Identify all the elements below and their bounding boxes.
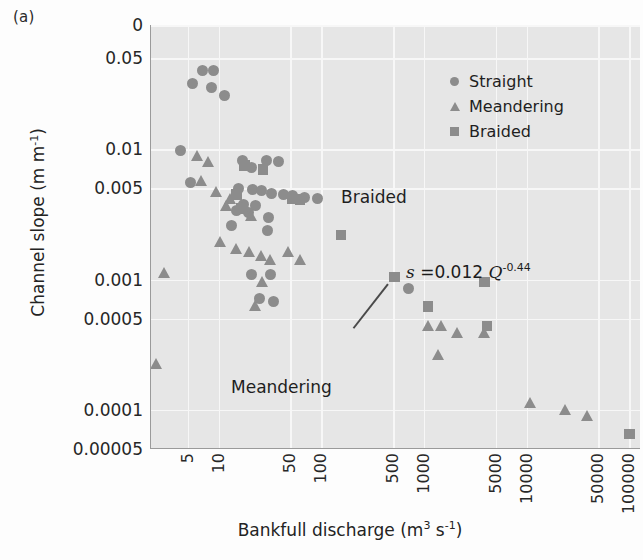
data-point-meandering bbox=[210, 186, 222, 197]
data-point-braided bbox=[482, 321, 493, 332]
data-point-meandering bbox=[245, 210, 257, 221]
data-point-straight bbox=[175, 145, 186, 156]
y-axis-tick-label: 0.05 bbox=[105, 48, 150, 68]
legend-label-straight: Straight bbox=[469, 72, 533, 91]
equation-operator: = bbox=[420, 262, 434, 282]
gridline-vertical bbox=[188, 25, 190, 448]
x-axis-title-mid: s bbox=[430, 520, 444, 540]
x-axis-tick-label: 10000 bbox=[516, 453, 535, 504]
equation-lhs: s bbox=[406, 262, 415, 282]
data-point-braided bbox=[624, 429, 635, 440]
equation-leader-line bbox=[353, 284, 389, 329]
equation-variable: Q bbox=[488, 262, 502, 282]
gridline-vertical bbox=[393, 25, 395, 448]
data-point-meandering bbox=[158, 267, 170, 278]
x-axis-tick-label: 500 bbox=[383, 453, 402, 484]
data-point-straight bbox=[403, 283, 414, 294]
data-point-braided bbox=[239, 160, 250, 171]
x-axis-title-text: Bankfull discharge (m bbox=[238, 520, 424, 540]
data-point-straight bbox=[273, 156, 284, 167]
y-axis-tick-label: 0.0001 bbox=[84, 400, 150, 420]
plot-area: Braided Meandering s =0.012 Q-0.44 Strai… bbox=[150, 25, 640, 449]
data-point-meandering bbox=[264, 254, 276, 265]
data-point-braided bbox=[295, 194, 306, 205]
gridline-horizontal bbox=[151, 58, 640, 60]
data-point-meandering bbox=[451, 327, 463, 338]
data-point-meandering bbox=[256, 276, 268, 287]
gridline-horizontal bbox=[151, 25, 640, 27]
data-point-meandering bbox=[243, 246, 255, 257]
data-point-meandering bbox=[581, 410, 593, 421]
y-axis-tick-label: 0.0005 bbox=[84, 309, 150, 329]
data-point-meandering bbox=[150, 358, 162, 369]
data-point-meandering bbox=[432, 349, 444, 360]
y-axis-tick-label: 0.005 bbox=[94, 178, 150, 198]
x-axis-tick-label: 50000 bbox=[588, 453, 607, 504]
x-axis-title-sup2: -1 bbox=[445, 519, 456, 532]
x-axis-title-end: ) bbox=[456, 520, 463, 540]
legend-item-meandering: Meandering bbox=[448, 96, 564, 116]
data-point-braided bbox=[236, 203, 247, 214]
data-point-meandering bbox=[524, 397, 536, 408]
data-point-braided bbox=[258, 164, 269, 175]
zone-label-meandering: Meandering bbox=[231, 377, 332, 397]
data-point-meandering bbox=[220, 200, 232, 211]
data-point-braided bbox=[231, 189, 242, 200]
gridline-horizontal bbox=[151, 319, 640, 321]
x-axis-tick-label: 10 bbox=[208, 453, 227, 473]
data-point-braided bbox=[336, 230, 347, 241]
legend-item-straight: Straight bbox=[448, 71, 564, 91]
data-point-meandering bbox=[422, 320, 434, 331]
data-point-braided bbox=[389, 272, 400, 283]
panel-label: (a) bbox=[13, 8, 35, 26]
x-axis-ticks: 51050100500100050001000050000100000 bbox=[150, 451, 640, 521]
data-point-meandering bbox=[559, 404, 571, 415]
triangle-marker-icon bbox=[448, 102, 461, 111]
y-axis-tick-label: 0 bbox=[132, 15, 150, 35]
data-point-straight bbox=[262, 225, 273, 236]
y-axis-tick-label: 0.001 bbox=[94, 270, 150, 290]
y-axis-title: Channel slope (m m-1) bbox=[28, 32, 49, 412]
figure-container: (a) 00.050.010.0050.0010.00050.00010.000… bbox=[0, 0, 643, 560]
y-axis-tick-label: 0.01 bbox=[105, 139, 150, 159]
x-axis-tick-label: 100000 bbox=[619, 453, 638, 514]
data-point-straight bbox=[263, 212, 274, 223]
data-point-meandering bbox=[435, 320, 447, 331]
data-point-meandering bbox=[214, 236, 226, 247]
legend: Straight Meandering Braided bbox=[448, 71, 564, 141]
data-point-straight bbox=[226, 220, 237, 231]
data-point-straight bbox=[312, 193, 323, 204]
y-axis-tick-label: 0.00005 bbox=[73, 439, 150, 459]
legend-label-meandering: Meandering bbox=[469, 97, 564, 116]
x-axis-tick-label: 100 bbox=[311, 453, 330, 484]
data-point-straight bbox=[256, 185, 267, 196]
y-axis-ticks: 00.050.010.0050.0010.00050.00010.00005 bbox=[0, 25, 150, 449]
x-axis-tick-label: 5000 bbox=[485, 453, 504, 494]
legend-label-braided: Braided bbox=[469, 122, 531, 141]
data-point-braided bbox=[423, 301, 434, 312]
data-point-straight bbox=[206, 82, 217, 93]
gridline-vertical bbox=[598, 25, 600, 448]
data-point-straight bbox=[197, 65, 208, 76]
x-axis-tick-label: 1000 bbox=[413, 453, 432, 494]
data-point-meandering bbox=[195, 175, 207, 186]
zone-label-braided: Braided bbox=[341, 187, 407, 207]
equation-exponent: -0.44 bbox=[502, 261, 530, 274]
data-point-straight bbox=[187, 78, 198, 89]
trendline-equation: s =0.012 Q-0.44 bbox=[406, 261, 531, 282]
x-axis-tick-label: 50 bbox=[280, 453, 299, 473]
data-point-straight bbox=[219, 90, 230, 101]
circle-marker-icon bbox=[448, 77, 461, 86]
x-axis-tick-label: 5 bbox=[177, 453, 196, 463]
equation-coefficient: 0.012 bbox=[434, 262, 483, 282]
data-point-straight bbox=[266, 188, 277, 199]
x-axis-title: Bankfull discharge (m3 s-1) bbox=[150, 519, 550, 540]
y-axis-title-text: Channel slope (m m bbox=[28, 146, 48, 317]
data-point-meandering bbox=[202, 156, 214, 167]
data-point-meandering bbox=[294, 254, 306, 265]
data-point-straight bbox=[268, 296, 279, 307]
gridline-vertical bbox=[629, 25, 631, 448]
legend-item-braided: Braided bbox=[448, 121, 564, 141]
y-axis-title-sup: -1 bbox=[28, 135, 41, 146]
data-point-meandering bbox=[230, 243, 242, 254]
